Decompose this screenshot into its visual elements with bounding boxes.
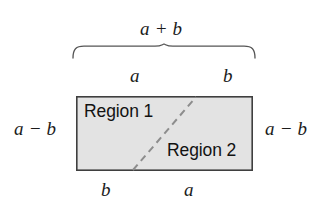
label-top-b: b: [223, 66, 233, 85]
label-a-plus-b: a + b: [140, 19, 182, 38]
figure-container: a + b a b a − b a − b b a Region 1 Regio…: [0, 0, 325, 208]
label-right-a-minus-b: a − b: [265, 119, 307, 138]
label-bottom-b: b: [101, 180, 111, 199]
label-region-1: Region 1: [84, 103, 153, 121]
label-left-a-minus-b: a − b: [14, 119, 56, 138]
top-brace: [73, 44, 255, 58]
label-bottom-a: a: [184, 180, 194, 199]
label-region-2: Region 2: [167, 142, 236, 160]
label-top-a: a: [130, 66, 140, 85]
